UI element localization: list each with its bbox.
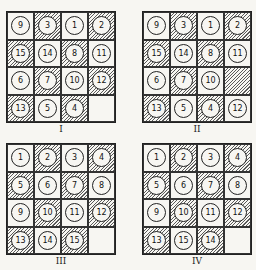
numbered-disc: 10 xyxy=(174,203,193,222)
numbered-disc: 15 xyxy=(174,231,193,250)
numbered-disc: 14 xyxy=(38,44,57,63)
numbered-disc: 2 xyxy=(174,148,193,167)
puzzle-tile: 2 xyxy=(88,12,115,40)
puzzle-tile: 14 xyxy=(170,40,197,68)
puzzle-panel-4: 123456789101112131514 IV xyxy=(142,143,254,266)
puzzle-tile: 13 xyxy=(7,227,34,255)
puzzle-tile: 3 xyxy=(61,144,88,172)
puzzle-tile: 4 xyxy=(61,95,88,123)
puzzle-tile: 12 xyxy=(224,199,251,227)
puzzle-tile: 12 xyxy=(224,95,251,123)
puzzle-tile: 2 xyxy=(224,12,251,40)
puzzle-tile: 7 xyxy=(170,67,197,95)
puzzle-tile: 4 xyxy=(88,144,115,172)
numbered-disc: 5 xyxy=(38,99,57,118)
puzzle-tile: 15 xyxy=(61,227,88,255)
numbered-disc: 5 xyxy=(147,176,166,195)
puzzle-tile: 9 xyxy=(7,12,34,40)
numbered-disc: 3 xyxy=(65,148,84,167)
puzzle-tile: 5 xyxy=(143,172,170,200)
puzzle-grid: 123456789101112131514 xyxy=(142,143,252,255)
puzzle-tile: 1 xyxy=(7,144,34,172)
numbered-disc: 2 xyxy=(228,16,247,35)
puzzle-tile: 3 xyxy=(170,12,197,40)
panel-caption: IV xyxy=(142,256,252,266)
numbered-disc: 4 xyxy=(201,99,220,118)
puzzle-tile: 5 xyxy=(7,172,34,200)
empty-cell xyxy=(224,227,251,255)
puzzle-tile: 1 xyxy=(197,12,224,40)
numbered-disc: 13 xyxy=(147,99,166,118)
numbered-disc: 12 xyxy=(92,203,111,222)
numbered-disc: 6 xyxy=(38,176,57,195)
puzzle-tile: 7 xyxy=(34,67,61,95)
puzzle-tile: 8 xyxy=(61,40,88,68)
puzzle-tile: 8 xyxy=(197,40,224,68)
numbered-disc: 11 xyxy=(65,203,84,222)
numbered-disc: 11 xyxy=(92,44,111,63)
numbered-disc: 7 xyxy=(174,71,193,90)
numbered-disc: 6 xyxy=(147,71,166,90)
puzzle-tile: 12 xyxy=(88,67,115,95)
numbered-disc: 1 xyxy=(65,16,84,35)
numbered-disc: 7 xyxy=(38,71,57,90)
puzzle-tile: 7 xyxy=(61,172,88,200)
numbered-disc: 12 xyxy=(228,203,247,222)
numbered-disc: 8 xyxy=(228,176,247,195)
numbered-disc: 8 xyxy=(65,44,84,63)
puzzle-tile: 13 xyxy=(143,227,170,255)
puzzle-grid: 931215148116710121354 xyxy=(6,11,116,123)
puzzle-tile: 12 xyxy=(88,199,115,227)
puzzle-panel-3: 123456789101112131415 III xyxy=(6,143,118,266)
puzzle-grid: 931215148116710135412 xyxy=(142,11,252,123)
puzzle-tile: 14 xyxy=(34,40,61,68)
puzzle-tile: 7 xyxy=(197,172,224,200)
puzzle-tile: 3 xyxy=(34,12,61,40)
numbered-disc: 14 xyxy=(38,231,57,250)
puzzle-tile: 10 xyxy=(34,199,61,227)
puzzle-tile: 5 xyxy=(34,95,61,123)
numbered-disc: 15 xyxy=(147,44,166,63)
puzzle-tile: 6 xyxy=(170,172,197,200)
numbered-disc: 13 xyxy=(11,231,30,250)
numbered-disc: 11 xyxy=(201,203,220,222)
panel-caption: III xyxy=(6,256,116,266)
puzzle-tile: 10 xyxy=(170,199,197,227)
numbered-disc: 4 xyxy=(92,148,111,167)
numbered-disc: 5 xyxy=(174,99,193,118)
numbered-disc: 1 xyxy=(147,148,166,167)
numbered-disc: 9 xyxy=(147,16,166,35)
puzzle-tile: 1 xyxy=(61,12,88,40)
puzzle-tile: 11 xyxy=(197,199,224,227)
puzzle-tile: 1 xyxy=(143,144,170,172)
numbered-disc: 3 xyxy=(174,16,193,35)
numbered-disc: 13 xyxy=(11,99,30,118)
numbered-disc: 6 xyxy=(11,71,30,90)
empty-cell xyxy=(88,95,115,123)
numbered-disc: 15 xyxy=(11,44,30,63)
puzzle-tile: 6 xyxy=(7,67,34,95)
numbered-disc: 15 xyxy=(65,231,84,250)
puzzle-tile: 15 xyxy=(143,40,170,68)
numbered-disc: 7 xyxy=(65,176,84,195)
numbered-disc: 7 xyxy=(201,176,220,195)
panel-caption: I xyxy=(6,124,116,134)
puzzle-panel-1: 931215148116710121354 I xyxy=(6,11,118,134)
puzzle-tile: 11 xyxy=(88,40,115,68)
numbered-disc: 9 xyxy=(147,203,166,222)
puzzle-panel-2: 931215148116710135412 II xyxy=(142,11,254,134)
puzzle-tile: 3 xyxy=(197,144,224,172)
numbered-disc: 14 xyxy=(201,231,220,250)
numbered-disc: 3 xyxy=(201,148,220,167)
puzzle-tile: 10 xyxy=(197,67,224,95)
puzzle-tile: 14 xyxy=(34,227,61,255)
puzzle-tile: 11 xyxy=(224,40,251,68)
puzzle-tile: 4 xyxy=(197,95,224,123)
puzzle-tile: 5 xyxy=(170,95,197,123)
numbered-disc: 12 xyxy=(228,99,247,118)
numbered-disc: 2 xyxy=(38,148,57,167)
numbered-disc: 13 xyxy=(147,231,166,250)
panel-caption: II xyxy=(142,124,252,134)
puzzle-tile: 10 xyxy=(61,67,88,95)
puzzle-tile: 9 xyxy=(143,12,170,40)
